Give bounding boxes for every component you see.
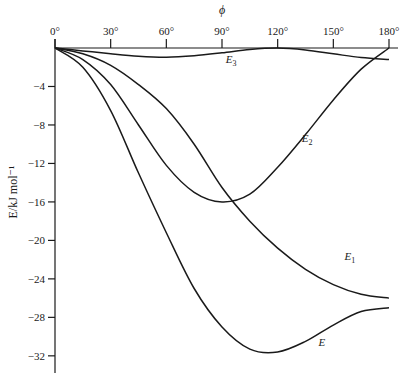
y-tick-label: −24 — [28, 273, 46, 285]
y-tick-label: −20 — [28, 234, 46, 246]
label-e3: E3 — [225, 53, 237, 68]
x-tick-label: 180° — [379, 25, 400, 37]
y-tick-label: −32 — [28, 350, 45, 362]
y-tick-label: −12 — [28, 157, 45, 169]
chart-canvas: 0°30°60°90°120°150°180° −4−8−12−16−20−24… — [0, 0, 412, 383]
curves — [55, 48, 389, 353]
x-tick-label: 90° — [214, 25, 229, 37]
curve-e3 — [55, 48, 389, 60]
x-tick-label: 30° — [103, 25, 118, 37]
x-axis-title: ϕ — [219, 3, 225, 17]
x-axis: 0°30°60°90°120°150°180° — [50, 25, 399, 48]
y-axis-title: E/kJ mol⁻¹ — [6, 165, 20, 218]
x-tick-label: 0° — [50, 25, 60, 37]
label-e1: E1 — [343, 250, 355, 265]
curve-e1 — [55, 48, 389, 298]
label-e2: E2 — [301, 132, 313, 147]
x-tick-label: 60° — [159, 25, 174, 37]
y-tick-label: −4 — [33, 80, 45, 92]
x-tick-label: 120° — [267, 25, 288, 37]
x-tick-label: 150° — [323, 25, 344, 37]
label-e: E — [317, 336, 325, 348]
y-axis: −4−8−12−16−20−24−28−32 — [28, 39, 55, 373]
y-tick-label: −8 — [33, 119, 45, 131]
curve-e2 — [55, 48, 389, 202]
y-tick-label: −28 — [28, 311, 46, 323]
y-tick-label: −16 — [28, 196, 46, 208]
